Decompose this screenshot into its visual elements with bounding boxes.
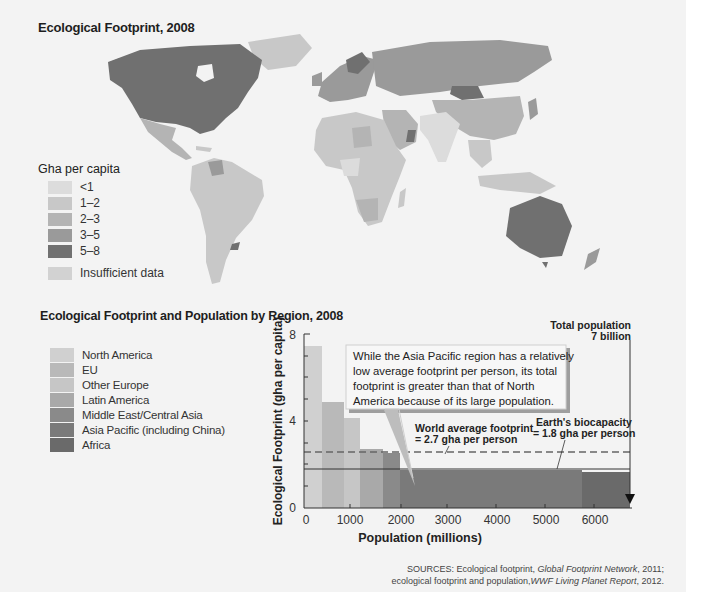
world-average-label-2: = 2.7 gha per person	[415, 433, 517, 445]
callout-text-2: low average footprint per person, its to…	[353, 365, 557, 377]
x-tick-1000: 1000	[337, 513, 364, 527]
bar-north-america	[304, 346, 322, 508]
bar-eu	[322, 402, 344, 508]
sources-text: , 2012.	[636, 576, 664, 586]
bar-other-europe	[344, 418, 360, 508]
sources-italic: WWF Living Planet Report	[531, 576, 637, 586]
x-tick-3000: 3000	[435, 513, 462, 527]
x-tick-4000: 4000	[484, 513, 511, 527]
x-axis-label: Population (millions)	[358, 531, 482, 545]
callout-text-3: footprint is greater than that of North	[353, 380, 534, 392]
footprint-population-chart: 8 4 0 0 1000 2000 3000 4000 5000 6000 Po…	[0, 0, 704, 610]
sources-text: ecological footprint and population,	[391, 576, 530, 586]
y-axis-label: Ecological Footprint (gha per capita)	[271, 317, 285, 526]
bar-africa	[582, 472, 630, 508]
x-tick-6000: 6000	[582, 513, 609, 527]
total-population-label-2: 7 billion	[591, 330, 631, 342]
bar-latin-america	[360, 449, 383, 508]
x-tick-0: 0	[303, 513, 310, 527]
sources-text: , 2011;	[637, 564, 664, 574]
sources-text: SOURCES: Ecological footprint,	[407, 564, 538, 574]
x-tick-5000: 5000	[533, 513, 560, 527]
x-tick-2000: 2000	[388, 513, 415, 527]
y-tick-0: 0	[289, 501, 296, 515]
sources-note: SOURCES: Ecological footprint, Global Fo…	[391, 563, 664, 587]
callout-text-1: While the Asia Pacific region has a rela…	[353, 350, 574, 362]
biocapacity-label-2: = 1.8 gha per person	[533, 427, 635, 439]
sources-italic: Global Footprint Network	[538, 564, 638, 574]
callout-text-4: America because of its large population.	[353, 395, 554, 407]
y-tick-8: 8	[289, 328, 296, 342]
bar-asia-pacific	[400, 470, 582, 508]
bar-middle-east	[383, 453, 400, 508]
y-tick-4: 4	[289, 414, 296, 428]
